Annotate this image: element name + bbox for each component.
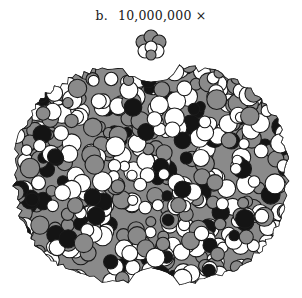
small-molecule-fragment bbox=[136, 30, 166, 60]
molecule-illustration bbox=[0, 0, 302, 298]
molecule-atoms bbox=[4, 54, 298, 295]
